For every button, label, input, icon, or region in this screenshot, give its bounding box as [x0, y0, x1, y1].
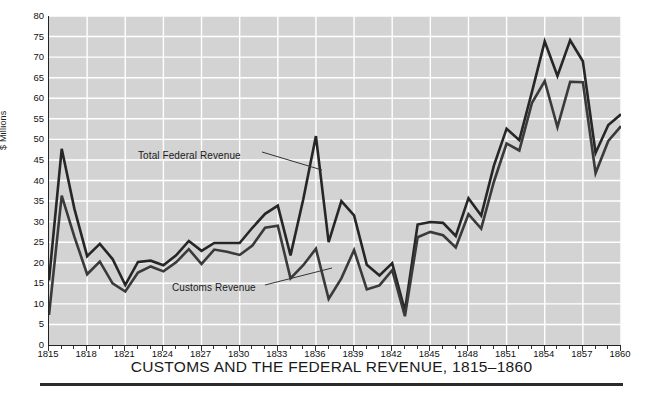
x-tick-mark [162, 346, 163, 351]
x-tick-mark [442, 346, 443, 349]
x-tick-mark [340, 346, 341, 349]
x-tick-mark [378, 346, 379, 349]
x-tick-mark [569, 346, 570, 349]
chart-figure: $ Millions 05101520253035404550556065707… [0, 0, 663, 400]
x-tick-mark [61, 346, 62, 349]
x-tick-mark [353, 346, 354, 351]
x-tick-mark [455, 346, 456, 349]
x-tick-mark [595, 346, 596, 349]
x-tick-mark [112, 346, 113, 349]
x-tick-mark [544, 346, 545, 351]
x-tick-mark [48, 346, 49, 351]
bottom-rule-divider [40, 383, 623, 386]
x-tick-mark [213, 346, 214, 349]
x-tick-mark [480, 346, 481, 349]
x-tick-mark [86, 346, 87, 351]
x-tick-mark [467, 346, 468, 351]
x-tick-mark [429, 346, 430, 351]
x-tick-mark [251, 346, 252, 349]
x-tick-mark [506, 346, 507, 351]
x-tick-mark [366, 346, 367, 349]
x-tick-mark [124, 346, 125, 351]
x-tick-mark [607, 346, 608, 349]
x-tick-mark [99, 346, 100, 349]
x-tick-mark [137, 346, 138, 349]
x-tick-mark [404, 346, 405, 349]
x-tick-mark [556, 346, 557, 349]
x-tick-mark [315, 346, 316, 351]
x-tick-mark [302, 346, 303, 349]
x-tick-mark [328, 346, 329, 349]
x-tick-mark [417, 346, 418, 349]
x-tick-mark [73, 346, 74, 349]
x-tick-mark [201, 346, 202, 351]
x-tick-mark [150, 346, 151, 349]
x-tick-mark [264, 346, 265, 349]
x-tick-mark [226, 346, 227, 349]
x-tick-mark [493, 346, 494, 349]
x-tick-mark [290, 346, 291, 349]
x-tick-mark [531, 346, 532, 349]
x-tick-mark [188, 346, 189, 349]
x-tick-mark [239, 346, 240, 351]
x-tick-mark [518, 346, 519, 349]
x-tick-mark [620, 346, 621, 351]
x-tick-mark [391, 346, 392, 351]
x-tick-mark [277, 346, 278, 351]
series-label-customs-revenue: Customs Revenue [172, 282, 256, 293]
series-label-total-federal-revenue: Total Federal Revenue [138, 150, 241, 161]
x-axis-ticks: 1815181818211824182718301833183618391842… [0, 0, 663, 400]
chart-title: CUSTOMS AND THE FEDERAL REVENUE, 1815–18… [0, 358, 663, 376]
x-tick-mark [582, 346, 583, 351]
x-tick-mark [175, 346, 176, 349]
